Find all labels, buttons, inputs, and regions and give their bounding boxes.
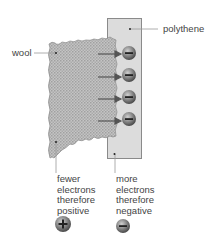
electron-icon [122,90,136,104]
polythene-label: polythene [163,24,204,35]
wool-label: wool [12,48,32,59]
wool-cloth [49,37,118,158]
negative-charge-icon [116,219,130,233]
electron-icon [122,112,136,126]
static-electricity-diagram [0,0,222,245]
polythene-caption: more electrons therefore negative [116,174,155,216]
electron-icon [122,68,136,82]
positive-charge-icon [55,216,71,232]
electron-icon [122,46,136,60]
wool-caption: fewer electrons therefore positive [57,174,96,216]
